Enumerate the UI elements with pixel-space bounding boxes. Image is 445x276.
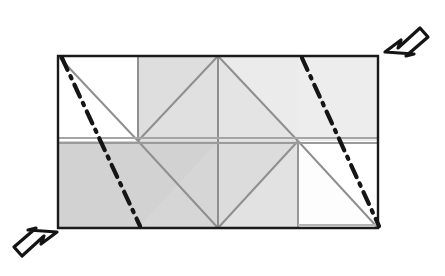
top-right-arrow bbox=[385, 28, 428, 56]
geometric-diagram bbox=[0, 0, 445, 276]
figure-container bbox=[0, 0, 445, 276]
top-right-arrow-shape bbox=[385, 28, 428, 56]
cell-bottom-left-rect bbox=[58, 141, 138, 228]
cell-top-right-rect bbox=[298, 56, 378, 141]
bottom-left-arrow-shape bbox=[14, 228, 57, 256]
bottom-left-arrow bbox=[14, 228, 57, 256]
